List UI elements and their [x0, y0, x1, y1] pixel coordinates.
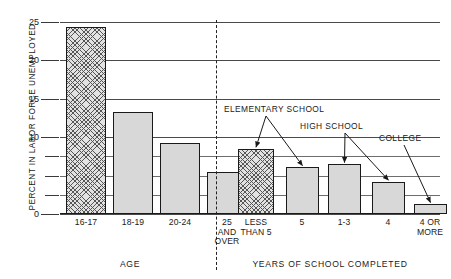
y-tick — [41, 137, 59, 138]
bar — [372, 182, 405, 214]
y-axis-tick-label: 25 — [29, 18, 39, 27]
y-tick — [45, 156, 59, 157]
y-tick — [45, 195, 59, 196]
gridline-major — [60, 22, 440, 23]
y-axis-tick-label: 10 — [29, 133, 39, 142]
y-tick — [41, 60, 59, 61]
bar — [66, 27, 106, 214]
y-axis-tick-label: 0 — [34, 210, 39, 219]
bar — [160, 143, 200, 214]
bar — [414, 204, 447, 214]
annotation-label-high-school: HIGH SCHOOL — [300, 121, 363, 131]
gridline-major — [60, 214, 440, 215]
panel-caption-age: AGE — [55, 259, 205, 269]
plot-area: 010152025 — [60, 22, 440, 214]
gridline-major — [60, 60, 440, 61]
annotation-label-elementary-school: ELEMENTARY SCHOOL — [224, 104, 324, 114]
y-axis-title: PERCENT IN LABOR FORCE UNEMPLOYED — [27, 17, 37, 217]
x-axis-tick-label: 4 OR MORE — [394, 218, 451, 237]
y-axis-tick-label: 15 — [29, 94, 39, 103]
bar — [113, 112, 153, 214]
y-axis-tick-label: 20 — [29, 56, 39, 65]
y-tick — [41, 22, 59, 23]
panel-caption-years-of-school: YEARS OF SCHOOL COMPLETED — [225, 259, 435, 269]
annotation-label-college: COLLEGE — [379, 133, 421, 143]
y-tick — [41, 99, 59, 100]
gridline-major — [60, 99, 440, 100]
bar — [328, 164, 361, 214]
bar — [286, 167, 319, 214]
bar — [238, 149, 274, 214]
y-tick — [45, 176, 59, 177]
y-tick — [41, 214, 59, 215]
